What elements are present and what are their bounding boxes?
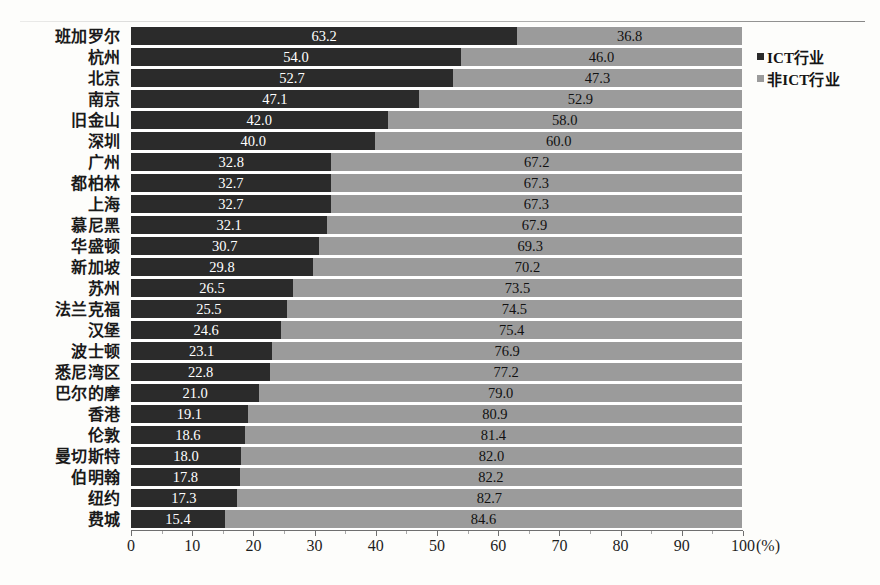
axis-tick-minor [712,531,713,534]
axis-tick [192,531,193,536]
axis-tick-minor [590,531,591,534]
axis-tick [437,531,438,536]
bar-value-label: 67.9 [327,218,742,233]
bar-row: 22.877.2 [131,362,742,383]
bar-row: 29.870.2 [131,257,742,278]
bar-segment-ict: 32.7 [131,195,331,213]
legend-item[interactable]: ICT行业 [757,45,875,67]
bar-value-label: 74.5 [287,302,742,317]
bar-value-label: 60.0 [375,134,742,149]
axis-tick [131,531,132,536]
category-label: 苏州 [0,278,126,299]
axis-tick-label: 50 [429,537,445,555]
bar-segment-non-ict: 74.5 [287,300,742,318]
bar-value-label: 23.1 [131,344,272,359]
bar-row: 32.767.3 [131,173,742,194]
bar-value-label: 75.4 [281,323,742,338]
bar-segment-non-ict: 36.8 [517,27,742,45]
bar-value-label: 69.3 [319,239,742,254]
bar-segment-non-ict: 82.7 [237,489,742,507]
bar-value-label: 81.4 [245,428,742,443]
bar-segment-ict: 21.0 [131,384,259,402]
axis-tick-label: 70 [551,537,567,555]
bar-value-label: 42.0 [131,113,388,128]
category-label: 旧金山 [0,110,126,131]
axis-tick-minor [223,531,224,534]
bar-segment-ict: 32.7 [131,174,331,192]
bar-row: 23.176.9 [131,341,742,362]
category-label: 香港 [0,404,126,425]
top-rule-divider [20,21,865,22]
category-label: 汉堡 [0,320,126,341]
category-label: 费城 [0,509,126,530]
category-label: 班加罗尔 [0,26,126,47]
axis-tick-minor [284,531,285,534]
bar-segment-non-ict: 69.3 [319,237,742,255]
bar-track: 26.573.5 [131,279,742,297]
bar-segment-ict: 22.8 [131,363,270,381]
axis-tick-label: 10 [184,537,200,555]
bar-row: 54.046.0 [131,47,742,68]
bar-segment-ict: 25.5 [131,300,287,318]
bar-row: 42.058.0 [131,110,742,131]
bar-track: 63.236.8 [131,27,742,45]
bar-row: 32.767.3 [131,194,742,215]
bar-value-label: 47.1 [131,92,419,107]
bar-segment-ict: 32.1 [131,216,327,234]
bar-segment-ict: 42.0 [131,111,388,129]
bar-row: 32.167.9 [131,215,742,236]
bar-segment-non-ict: 82.0 [241,447,742,465]
bar-track: 18.681.4 [131,426,742,444]
bar-value-label: 52.9 [419,92,742,107]
bar-row: 32.867.2 [131,152,742,173]
chart-legend: ICT行业非ICT行业 [757,45,875,89]
bar-value-label: 18.6 [131,428,245,443]
axis-tick-minor [529,531,530,534]
bar-segment-non-ict: 60.0 [375,132,742,150]
bar-track: 21.079.0 [131,384,742,402]
bar-value-label: 30.7 [131,239,319,254]
bar-value-label: 18.0 [131,449,241,464]
bar-value-label: 76.9 [272,344,742,359]
x-axis-unit-label: (%) [756,537,780,555]
axis-tick-label: 100 [731,537,755,555]
bar-row: 30.769.3 [131,236,742,257]
axis-tick [682,531,683,536]
bar-segment-non-ict: 84.6 [225,510,742,528]
category-label: 悉尼湾区 [0,362,126,383]
bar-value-label: 32.7 [131,176,331,191]
legend-item[interactable]: 非ICT行业 [757,67,875,89]
bar-row: 17.882.2 [131,467,742,488]
bar-value-label: 47.3 [453,71,742,86]
bar-row: 26.573.5 [131,278,742,299]
bar-segment-non-ict: 80.9 [248,405,742,423]
bar-value-label: 80.9 [248,407,742,422]
category-axis-labels: 班加罗尔杭州北京南京旧金山深圳广州都柏林上海慕尼黑华盛顿新加坡苏州法兰克福汉堡波… [0,26,126,530]
bar-segment-ict: 17.3 [131,489,237,507]
bar-value-label: 54.0 [131,50,461,65]
bar-value-label: 32.1 [131,218,327,233]
bar-track: 24.675.4 [131,321,742,339]
bar-segment-non-ict: 67.2 [331,153,742,171]
category-label: 巴尔的摩 [0,383,126,404]
axis-tick-minor [651,531,652,534]
x-axis-tick-labels: 0102030405060708090100 [131,537,743,561]
bar-segment-non-ict: 82.2 [240,468,742,486]
bar-track: 32.767.3 [131,195,742,213]
bar-segment-ict: 18.6 [131,426,245,444]
bar-value-label: 82.2 [240,470,742,485]
bar-row: 18.082.0 [131,446,742,467]
category-label: 波士顿 [0,341,126,362]
bar-segment-ict: 63.2 [131,27,517,45]
category-label: 南京 [0,89,126,110]
bar-value-label: 17.3 [131,491,237,506]
bar-row: 17.382.7 [131,488,742,509]
bar-track: 47.152.9 [131,90,742,108]
bar-track: 40.060.0 [131,132,742,150]
bar-value-label: 82.0 [241,449,742,464]
axis-tick-minor [345,531,346,534]
bar-row: 40.060.0 [131,131,742,152]
bar-segment-non-ict: 79.0 [259,384,742,402]
category-label: 新加坡 [0,257,126,278]
bar-value-label: 46.0 [461,50,742,65]
